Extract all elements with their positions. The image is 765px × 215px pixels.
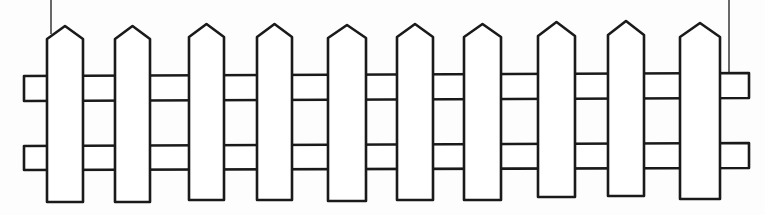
fence-pickets [47,21,720,202]
picket-1 [47,26,83,202]
picket-5 [328,25,366,201]
picket-10 [680,23,720,199]
fence-illustration [0,0,765,215]
picket-8 [538,22,575,197]
picket-6 [397,24,433,200]
picket-fence-drawing [0,0,765,215]
picket-3 [189,24,224,200]
picket-2 [115,26,150,202]
picket-7 [464,24,501,200]
picket-4 [257,24,292,200]
picket-9 [608,21,644,196]
